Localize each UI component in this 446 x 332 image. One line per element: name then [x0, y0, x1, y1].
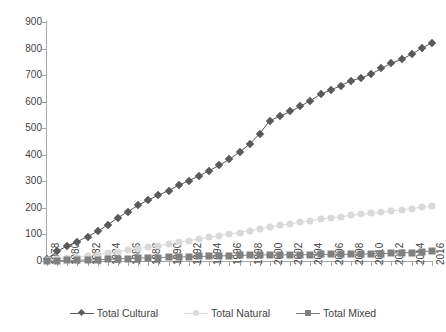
x-axis-tick-mark — [209, 262, 210, 266]
x-axis-tick-label: 1990 — [173, 243, 183, 265]
x-axis-tick-mark — [391, 262, 392, 266]
chart-legend: Total CulturalTotal NaturalTotal Mixed — [0, 303, 446, 323]
x-axis-tick-mark — [371, 262, 372, 266]
x-axis-tick-label: 2006 — [335, 243, 345, 265]
x-axis-tick-mark — [422, 262, 423, 266]
x-axis-tick-label: 1982 — [92, 243, 102, 265]
x-axis-tick-label: 1992 — [193, 243, 203, 265]
legend-marker-icon — [70, 308, 94, 318]
x-axis-tick-mark — [229, 262, 230, 266]
legend-item-label: Total Cultural — [97, 308, 158, 319]
x-axis-tick-label: 2008 — [355, 243, 365, 265]
x-axis-tick-label: 1994 — [213, 243, 223, 265]
x-axis-tick-mark — [290, 262, 291, 266]
x-axis-tick-mark — [331, 262, 332, 266]
x-axis-tick-label: 2010 — [375, 243, 385, 265]
x-axis-tick-mark — [57, 262, 58, 266]
x-axis-tick-mark — [270, 262, 271, 266]
x-axis-tick-mark — [250, 262, 251, 266]
x-axis-tick-mark — [199, 262, 200, 266]
x-axis-tick-mark — [128, 262, 129, 266]
line-chart: 0100200300400500600700800900 19781980198… — [0, 0, 446, 332]
x-axis-tick-label: 1986 — [132, 243, 142, 265]
x-axis-tick-mark — [351, 262, 352, 266]
x-axis-tick-mark — [432, 262, 433, 266]
x-axis-tick-label: 2000 — [274, 243, 284, 265]
x-axis-tick-mark — [219, 262, 220, 266]
x-axis-tick-mark — [260, 262, 261, 266]
x-axis-tick-mark — [77, 262, 78, 266]
x-axis-tick-mark — [341, 262, 342, 266]
legend-marker-icon — [296, 308, 320, 318]
x-axis-tick-mark — [381, 262, 382, 266]
x-axis-tick-mark — [158, 262, 159, 266]
x-axis-tick-mark — [98, 262, 99, 266]
x-axis-tick-label: 2012 — [395, 243, 405, 265]
x-axis-tick-mark — [108, 262, 109, 266]
x-axis-tick-mark — [148, 262, 149, 266]
x-axis-tick-mark — [412, 262, 413, 266]
x-axis-tick-label: 1978 — [51, 243, 61, 265]
legend-item-label: Total Natural — [211, 308, 270, 319]
legend-item-total-natural[interactable]: Total Natural — [184, 308, 270, 319]
x-axis-tick-mark — [179, 262, 180, 266]
x-axis-tick-label: 1996 — [233, 243, 243, 265]
x-axis-tick-mark — [118, 262, 119, 266]
x-axis: 1978198019821984198619881990199219941996… — [0, 0, 446, 332]
x-axis-tick-label: 2004 — [314, 243, 324, 265]
x-axis-tick-mark — [310, 262, 311, 266]
x-axis-tick-mark — [321, 262, 322, 266]
x-axis-tick-mark — [240, 262, 241, 266]
x-axis-tick-mark — [280, 262, 281, 266]
x-axis-tick-label: 2014 — [416, 243, 426, 265]
x-axis-tick-label: 1988 — [152, 243, 162, 265]
x-axis-tick-mark — [67, 262, 68, 266]
x-axis-tick-mark — [300, 262, 301, 266]
x-axis-tick-mark — [402, 262, 403, 266]
legend-item-total-mixed[interactable]: Total Mixed — [296, 308, 376, 319]
x-axis-tick-mark — [47, 262, 48, 266]
x-axis-tick-label: 1984 — [112, 243, 122, 265]
x-axis-tick-label: 2002 — [294, 243, 304, 265]
legend-marker-icon — [184, 308, 208, 318]
x-axis-tick-label: 2016 — [436, 243, 446, 265]
legend-item-total-cultural[interactable]: Total Cultural — [70, 308, 158, 319]
x-axis-tick-label: 1980 — [71, 243, 81, 265]
x-axis-tick-mark — [88, 262, 89, 266]
x-axis-tick-mark — [138, 262, 139, 266]
x-axis-tick-mark — [169, 262, 170, 266]
x-axis-tick-mark — [361, 262, 362, 266]
legend-item-label: Total Mixed — [323, 308, 376, 319]
x-axis-tick-mark — [189, 262, 190, 266]
x-axis-tick-label: 1998 — [254, 243, 264, 265]
